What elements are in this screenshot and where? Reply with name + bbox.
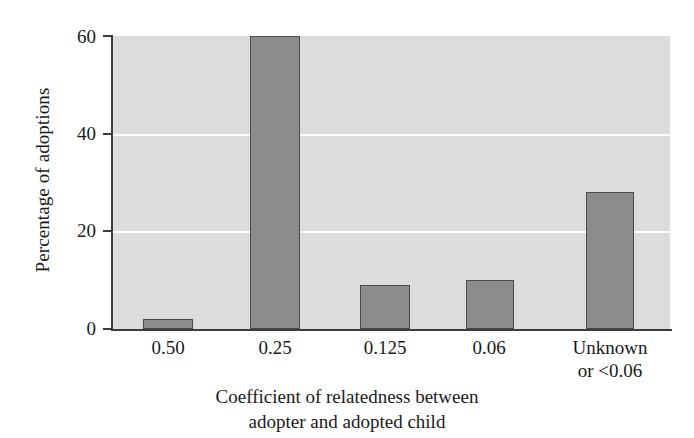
y-tick-label-60: 60 — [36, 27, 96, 46]
bar-chart-figure: Percentage of adoptions 60 40 20 0 0.50 … — [0, 0, 694, 438]
x-tick-label-4: Unknown or <0.06 — [550, 336, 670, 382]
y-axis-line — [111, 35, 113, 331]
bar-0.125 — [360, 285, 410, 329]
y-axis-title: Percentage of adoptions — [26, 15, 60, 345]
bar-unknown — [586, 192, 634, 329]
plot-area — [113, 36, 670, 329]
x-tick-label-2: 0.125 — [325, 336, 445, 359]
x-axis-title: Coefficient of relatedness between adopt… — [60, 384, 634, 434]
x-axis-title-line1: Coefficient of relatedness between — [60, 384, 634, 409]
bar-0.50 — [143, 319, 193, 329]
y-tick-label-40: 40 — [36, 124, 96, 143]
bar-0.25 — [250, 36, 300, 329]
y-tick-mark-40 — [103, 133, 112, 135]
y-tick-label-0: 0 — [36, 319, 96, 338]
x-tick-label-1: 0.25 — [215, 336, 335, 359]
x-axis-title-line2: adopter and adopted child — [60, 409, 634, 434]
y-tick-mark-60 — [103, 35, 112, 37]
bar-0.06 — [466, 280, 514, 329]
gridline-40 — [113, 134, 670, 136]
y-tick-mark-0 — [103, 328, 112, 330]
x-tick-label-0: 0.50 — [108, 336, 228, 359]
y-tick-label-20: 20 — [36, 221, 96, 240]
x-axis-line — [111, 329, 672, 331]
y-tick-mark-20 — [103, 230, 112, 232]
x-tick-label-3: 0.06 — [429, 336, 549, 359]
x-tick-label-4-line2: or <0.06 — [550, 359, 670, 382]
x-tick-label-4-line1: Unknown — [550, 336, 670, 359]
